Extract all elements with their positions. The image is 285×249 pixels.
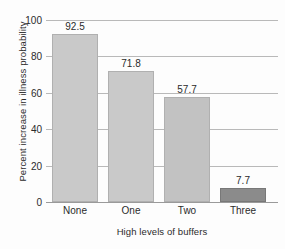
bar-none[interactable] bbox=[52, 34, 98, 202]
x-tick-label-two: Two bbox=[164, 205, 210, 216]
x-tick-label-none: None bbox=[52, 205, 98, 216]
plot-area: 92.5 71.8 57.7 7.7 bbox=[46, 20, 278, 202]
bar-value-none: 92.5 bbox=[52, 21, 98, 32]
bar-value-two: 57.7 bbox=[164, 84, 210, 95]
y-tick-label: 20 bbox=[14, 160, 42, 171]
gridline-baseline bbox=[46, 202, 278, 203]
bar-three[interactable] bbox=[220, 188, 266, 202]
x-tick-label-three: Three bbox=[220, 205, 266, 216]
bar-value-three: 7.7 bbox=[220, 175, 266, 186]
y-tick-label: 0 bbox=[14, 197, 42, 208]
x-tick-label-one: One bbox=[108, 205, 154, 216]
y-tick-label: 100 bbox=[14, 15, 42, 26]
y-tick-label: 80 bbox=[14, 51, 42, 62]
bar-group-two: 57.7 bbox=[164, 20, 210, 202]
bar-group-none: 92.5 bbox=[52, 20, 98, 202]
bar-group-three: 7.7 bbox=[220, 20, 266, 202]
bar-group-one: 71.8 bbox=[108, 20, 154, 202]
x-axis-title: High levels of buffers bbox=[46, 226, 278, 237]
x-axis-tick-labels: None One Two Three bbox=[46, 205, 278, 221]
bar-chart: Percent increase in illness probability … bbox=[0, 0, 285, 249]
bar-one[interactable] bbox=[108, 71, 154, 202]
bar-two[interactable] bbox=[164, 97, 210, 202]
bar-value-one: 71.8 bbox=[108, 58, 154, 69]
y-axis-tick-labels: 100 80 60 40 20 0 bbox=[10, 20, 42, 202]
y-tick-label: 60 bbox=[14, 87, 42, 98]
y-tick-label: 40 bbox=[14, 124, 42, 135]
bars-layer: 92.5 71.8 57.7 7.7 bbox=[46, 20, 278, 202]
